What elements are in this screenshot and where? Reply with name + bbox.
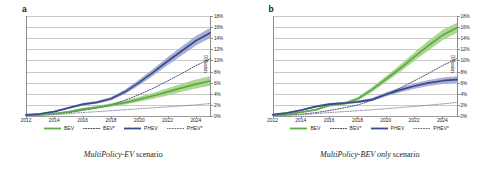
- legend-swatch-icon: [83, 126, 100, 131]
- legend-label: PHEV: [144, 126, 158, 131]
- x-tick-label: 2012: [21, 118, 32, 123]
- legend-a: BEVBEV*PHEVPHEV*: [0, 126, 247, 131]
- y-tick-label: 18%: [461, 14, 470, 19]
- x-tick-label: 2018: [352, 118, 363, 123]
- x-tick-mark: [273, 116, 274, 119]
- legend-item-phev[interactable]: PHEV: [124, 126, 158, 131]
- legend-swatch-icon: [330, 126, 347, 131]
- x-tick-label: 2024: [437, 118, 448, 123]
- legend-label: BEV: [310, 126, 320, 131]
- y-tick-mark: [457, 116, 460, 117]
- y-tick-label: 6%: [214, 80, 220, 85]
- x-tick-mark: [111, 116, 112, 119]
- legend-label: BEV*: [103, 126, 115, 131]
- y-tick-mark: [210, 116, 213, 117]
- x-tick-mark: [386, 116, 387, 119]
- caption-a-suffix: scenario: [134, 150, 163, 159]
- y-tick-mark: [457, 105, 460, 106]
- y-tick-mark: [457, 38, 460, 39]
- y-tick-mark: [210, 60, 213, 61]
- y-tick-label: 16%: [461, 25, 470, 30]
- y-tick-label: 4%: [461, 91, 467, 96]
- y-tick-mark: [210, 38, 213, 39]
- y-tick-label: 10%: [214, 58, 223, 63]
- y-tick-mark: [210, 49, 213, 50]
- y-tick-label: 8%: [214, 69, 220, 74]
- caption-a: MultiPolicy-EV scenario: [0, 150, 247, 159]
- legend-swatch-icon: [371, 126, 388, 131]
- y-axis-title-b: Diffusion: [449, 55, 454, 73]
- legend-item-bev[interactable]: BEV: [44, 126, 74, 131]
- plot-area-a: 0%2%4%6%8%10%12%14%16%18%201220142016201…: [0, 14, 247, 122]
- legend-swatch-icon: [290, 126, 307, 131]
- caption-b-suffix: scenario: [391, 150, 420, 159]
- legend-label: PHEV: [391, 126, 405, 131]
- legend-swatch-icon: [44, 126, 61, 131]
- x-tick-label: 2024: [190, 118, 201, 123]
- y-tick-label: 8%: [461, 69, 467, 74]
- y-tick-label: 12%: [461, 47, 470, 52]
- x-tick-label: 2022: [409, 118, 420, 123]
- x-tick-mark: [357, 116, 358, 119]
- legend-item-bev-star[interactable]: BEV*: [330, 126, 362, 131]
- x-tick-label: 2022: [162, 118, 173, 123]
- x-tick-label: 2018: [105, 118, 116, 123]
- x-tick-mark: [442, 116, 443, 119]
- series-group-a: [26, 16, 210, 116]
- legend-item-bev-star[interactable]: BEV*: [83, 126, 115, 131]
- legend-label: BEV: [64, 126, 74, 131]
- y-tick-label: 6%: [461, 80, 467, 85]
- y-tick-label: 14%: [214, 36, 223, 41]
- legend-item-phev-star[interactable]: PHEV*: [167, 126, 203, 131]
- x-tick-mark: [83, 116, 84, 119]
- x-tick-label: 2016: [77, 118, 88, 123]
- x-tick-label: 2014: [49, 118, 60, 123]
- x-tick-mark: [26, 116, 27, 119]
- legend-swatch-icon: [413, 126, 430, 131]
- y-tick-mark: [457, 94, 460, 95]
- x-tick-label: 2020: [134, 118, 145, 123]
- y-tick-mark: [210, 83, 213, 84]
- x-tick-label: 2012: [267, 118, 278, 123]
- y-axis-right-a: [210, 16, 211, 116]
- y-tick-mark: [457, 60, 460, 61]
- y-axis-right-b: [457, 16, 458, 116]
- legend-b: BEVBEV*PHEVPHEV*: [247, 126, 493, 131]
- y-tick-mark: [210, 27, 213, 28]
- x-tick-label: 2020: [380, 118, 391, 123]
- x-tick-label: 2016: [324, 118, 335, 123]
- legend-item-phev[interactable]: PHEV: [371, 126, 405, 131]
- y-tick-mark: [457, 16, 460, 17]
- panel-letter-b: b: [269, 4, 274, 14]
- y-tick-label: 0%: [461, 114, 467, 119]
- x-tick-label: 2014: [295, 118, 306, 123]
- y-tick-mark: [210, 94, 213, 95]
- series-group-b: [273, 16, 457, 116]
- y-tick-label: 18%: [214, 14, 223, 19]
- legend-label: PHEV*: [433, 126, 449, 131]
- legend-swatch-icon: [167, 126, 184, 131]
- series-line-bev-star: [273, 59, 457, 116]
- y-axis-title-a: Diffusion: [203, 55, 208, 73]
- legend-item-bev[interactable]: BEV: [290, 126, 320, 131]
- legend-label: PHEV*: [187, 126, 203, 131]
- legend-item-phev-star[interactable]: PHEV*: [413, 126, 449, 131]
- plot-area-b: 0%2%4%6%8%10%12%14%16%18%201220142016201…: [247, 14, 493, 122]
- x-tick-mark: [168, 116, 169, 119]
- y-tick-label: 4%: [214, 91, 220, 96]
- x-tick-mark: [414, 116, 415, 119]
- y-tick-label: 14%: [461, 36, 470, 41]
- y-tick-label: 0%: [214, 114, 220, 119]
- caption-a-scenario: MultiPolicy-EV: [84, 150, 134, 159]
- panel-a: a 0%2%4%6%8%10%12%14%16%18%2012201420162…: [0, 0, 247, 172]
- panel-letter-a: a: [22, 4, 27, 14]
- x-tick-mark: [139, 116, 140, 119]
- y-tick-label: 10%: [461, 58, 470, 63]
- x-tick-mark: [196, 116, 197, 119]
- series-line-phev-star: [273, 102, 457, 115]
- legend-label: BEV*: [350, 126, 362, 131]
- y-tick-mark: [457, 72, 460, 73]
- figure-two-panel-diffusion: a 0%2%4%6%8%10%12%14%16%18%2012201420162…: [0, 0, 493, 172]
- caption-b: MultiPolicy-BEV only scenario: [247, 150, 493, 159]
- y-tick-mark: [210, 105, 213, 106]
